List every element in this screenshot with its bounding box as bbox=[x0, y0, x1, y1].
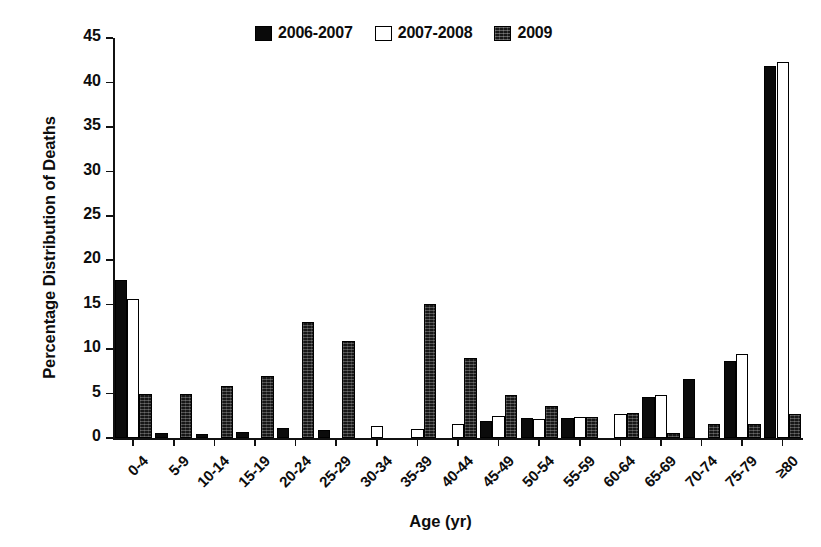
x-axis-tick-label: 70-74 bbox=[681, 452, 719, 490]
x-axis-tick-label: 0-4 bbox=[124, 452, 151, 479]
x-axis-title: Age (yr) bbox=[0, 512, 821, 531]
x-axis-tick bbox=[701, 438, 703, 446]
x-axis-tick bbox=[173, 438, 175, 446]
x-axis-tick-label: 75-79 bbox=[722, 452, 760, 490]
bar-60-64-2009 bbox=[627, 413, 639, 438]
x-axis-tick-label: ≥80 bbox=[772, 452, 801, 481]
y-axis-tick-label: 40 bbox=[83, 71, 101, 91]
plot-area: 0510152025303540450-45-910-1415-1920-242… bbox=[113, 38, 803, 438]
x-axis-tick bbox=[132, 438, 134, 446]
bar-20-24-2009 bbox=[302, 322, 314, 438]
bar-45-49-2009 bbox=[505, 395, 517, 438]
x-axis-tick bbox=[417, 438, 419, 446]
bar-20-24-2006-2007 bbox=[277, 428, 289, 438]
bar-65-69-2007-2008 bbox=[655, 395, 667, 438]
bar-65-69-2009 bbox=[667, 433, 679, 438]
x-axis-tick bbox=[538, 438, 540, 446]
bar-40-44-2009 bbox=[464, 358, 476, 438]
bar-65-69-2006-2007 bbox=[642, 397, 654, 438]
bar-10-14-2009 bbox=[221, 386, 233, 438]
bar-15-19-2009 bbox=[261, 376, 273, 438]
x-axis-tick-label: 10-14 bbox=[194, 452, 232, 490]
bar-45-49-2007-2008 bbox=[492, 416, 504, 438]
bar-ge80-2007-2008 bbox=[777, 62, 789, 438]
bars-layer bbox=[113, 38, 803, 438]
x-axis-tick-label: 30-34 bbox=[356, 452, 394, 490]
y-axis-tick-label: 45 bbox=[83, 26, 101, 46]
x-axis-tick-label: 25-29 bbox=[316, 452, 354, 490]
y-axis-tick: 0 bbox=[106, 437, 113, 439]
x-axis-tick-label: 40-44 bbox=[438, 452, 476, 490]
x-axis-tick bbox=[579, 438, 581, 446]
bar-50-54-2006-2007 bbox=[521, 418, 533, 438]
y-axis-tick: 35 bbox=[106, 126, 113, 128]
bar-75-79-2009 bbox=[748, 424, 760, 438]
y-axis-tick-label: 15 bbox=[83, 293, 101, 313]
bar-55-59-2009 bbox=[586, 417, 598, 438]
bar-45-49-2006-2007 bbox=[480, 421, 492, 438]
x-axis-tick-label: 65-69 bbox=[641, 452, 679, 490]
y-axis-tick: 20 bbox=[106, 259, 113, 261]
x-axis-tick bbox=[335, 438, 337, 446]
y-axis-tick-label: 35 bbox=[83, 115, 101, 135]
y-axis-tick-label: 20 bbox=[83, 248, 101, 268]
bar-25-29-2006-2007 bbox=[318, 430, 330, 438]
x-axis-tick bbox=[457, 438, 459, 446]
bar-50-54-2007-2008 bbox=[533, 419, 545, 438]
x-axis-tick-label: 55-59 bbox=[559, 452, 597, 490]
x-axis-tick bbox=[660, 438, 662, 446]
bar-70-74-2009 bbox=[708, 424, 720, 438]
bar-55-59-2006-2007 bbox=[561, 418, 573, 438]
bar-30-34-2007-2008 bbox=[371, 426, 383, 438]
x-axis-tick-label: 35-39 bbox=[397, 452, 435, 490]
x-axis-tick-label: 50-54 bbox=[519, 452, 557, 490]
bar-ge80-2006-2007 bbox=[764, 66, 776, 438]
x-axis-tick-label: 60-64 bbox=[600, 452, 638, 490]
x-axis-tick bbox=[782, 438, 784, 446]
x-axis-tick-label: 5-9 bbox=[165, 452, 192, 479]
bar-75-79-2007-2008 bbox=[736, 354, 748, 438]
bar-0-4-2006-2007 bbox=[115, 280, 127, 438]
x-axis-tick-label: 20-24 bbox=[275, 452, 313, 490]
bar-10-14-2006-2007 bbox=[196, 434, 208, 438]
bar-chart-figure: 2006-20072007-20082009 Percentage Distri… bbox=[0, 0, 821, 547]
bar-60-64-2007-2008 bbox=[614, 414, 626, 438]
y-axis-tick-label: 5 bbox=[92, 382, 101, 402]
y-axis-tick: 30 bbox=[106, 171, 113, 173]
x-axis-tick-label: 45-49 bbox=[478, 452, 516, 490]
bar-25-29-2009 bbox=[342, 341, 354, 438]
bar-5-9-2009 bbox=[180, 394, 192, 438]
bar-15-19-2006-2007 bbox=[236, 432, 248, 438]
x-axis-tick bbox=[620, 438, 622, 446]
x-axis-tick bbox=[376, 438, 378, 446]
y-axis-tick: 10 bbox=[106, 348, 113, 350]
y-axis-tick: 25 bbox=[106, 215, 113, 217]
bar-40-44-2007-2008 bbox=[452, 424, 464, 438]
x-axis-tick-label: 15-19 bbox=[235, 452, 273, 490]
bar-0-4-2007-2008 bbox=[127, 299, 139, 438]
bar-55-59-2007-2008 bbox=[574, 417, 586, 438]
x-axis-tick bbox=[295, 438, 297, 446]
y-axis-tick: 45 bbox=[106, 37, 113, 39]
x-axis-tick bbox=[741, 438, 743, 446]
bar-ge80-2009 bbox=[789, 414, 801, 438]
y-axis-tick-label: 30 bbox=[83, 160, 101, 180]
x-axis-tick bbox=[214, 438, 216, 446]
x-axis-tick bbox=[254, 438, 256, 446]
bar-35-39-2007-2008 bbox=[411, 429, 423, 438]
y-axis-tick-label: 25 bbox=[83, 204, 101, 224]
y-axis-tick: 5 bbox=[106, 393, 113, 395]
y-axis-tick: 15 bbox=[106, 304, 113, 306]
bar-50-54-2009 bbox=[545, 406, 557, 438]
y-axis-tick-label: 0 bbox=[92, 426, 101, 446]
bar-75-79-2006-2007 bbox=[724, 361, 736, 438]
y-axis-tick-label: 10 bbox=[83, 337, 101, 357]
y-axis-tick: 40 bbox=[106, 82, 113, 84]
bar-35-39-2009 bbox=[424, 304, 436, 438]
bar-5-9-2006-2007 bbox=[155, 433, 167, 438]
y-axis-title: Percentage Distribution of Deaths bbox=[40, 48, 59, 448]
x-axis-tick bbox=[498, 438, 500, 446]
bar-70-74-2006-2007 bbox=[683, 379, 695, 438]
bar-0-4-2009 bbox=[139, 394, 151, 438]
